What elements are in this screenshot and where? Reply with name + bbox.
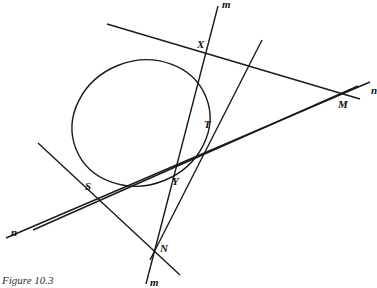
diagram-canvas: X M T S Y N m m n n bbox=[0, 0, 377, 288]
label-S: S bbox=[85, 180, 91, 192]
label-m-top: m bbox=[222, 0, 231, 10]
line-YM bbox=[33, 86, 358, 230]
line-SN bbox=[38, 143, 180, 275]
label-N: N bbox=[159, 242, 169, 254]
label-Y: Y bbox=[172, 175, 180, 187]
label-n-left: n bbox=[11, 226, 17, 238]
line-m bbox=[146, 6, 218, 284]
label-X: X bbox=[196, 38, 205, 50]
figure-caption: Figure 10.3 bbox=[2, 274, 54, 286]
label-M: M bbox=[337, 98, 349, 110]
label-m-bottom: m bbox=[150, 276, 159, 288]
line-TN bbox=[150, 40, 262, 260]
line-XM bbox=[107, 24, 360, 99]
projective-geometry-figure: X M T S Y N m m n n Figure 10.3 bbox=[0, 0, 377, 288]
label-n-right: n bbox=[371, 84, 377, 96]
